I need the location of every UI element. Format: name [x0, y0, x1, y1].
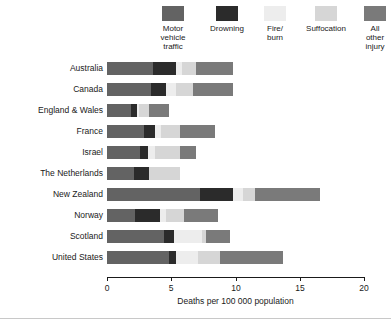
- legend-item-motor-vehicle-traffic: Motor vehicle traffic: [150, 6, 196, 52]
- x-tick-label-0: 0: [95, 283, 119, 293]
- footer-divider: [0, 318, 391, 319]
- x-tick-label-15: 15: [288, 283, 312, 293]
- y-label-scotland: Scotland: [0, 230, 103, 243]
- legend-item-suffocation: Suffocation: [296, 6, 356, 33]
- bar-segment-canada-drowning: [151, 83, 166, 96]
- bar-segment-australia-all-other-injury: [196, 62, 233, 75]
- x-tick-5: [171, 277, 172, 281]
- y-label-israel: Israel: [0, 146, 103, 159]
- bar-segment-united-states-drowning: [169, 251, 177, 264]
- bar-segment-australia-suffocation: [182, 62, 196, 75]
- legend-swatch-all-other-injury: [364, 6, 386, 21]
- bar-segment-france-motor-vehicle-traffic: [107, 125, 144, 138]
- bar-segment-scotland-motor-vehicle-traffic: [107, 230, 164, 243]
- bar-segment-the-netherlands-drowning: [134, 167, 149, 180]
- legend-label-drowning: Drowning: [201, 24, 253, 33]
- bar-row-new-zealand: [107, 188, 364, 201]
- bar-segment-new-zealand-motor-vehicle-traffic: [107, 188, 200, 201]
- bar-segment-new-zealand-fire-burn: [233, 188, 243, 201]
- bar-segment-new-zealand-suffocation: [243, 188, 255, 201]
- bar-segment-norway-all-other-injury: [184, 209, 217, 222]
- x-tick-label-5: 5: [159, 283, 183, 293]
- y-label-new-zealand: New Zealand: [0, 188, 103, 201]
- y-label-england-wales: England & Wales: [0, 104, 103, 117]
- y-label-france: France: [0, 125, 103, 138]
- y-axis-labels: Australia Canada England & Wales France …: [0, 62, 103, 274]
- bar-row-the-netherlands: [107, 167, 364, 180]
- bar-segment-france-all-other-injury: [180, 125, 215, 138]
- bar-segment-israel-all-other-injury: [180, 146, 195, 159]
- legend-label-motor-vehicle-traffic: Motor vehicle traffic: [150, 24, 196, 52]
- legend-item-fire-burn: Fire/ burn: [258, 6, 292, 42]
- bar-segment-canada-all-other-injury: [193, 83, 233, 96]
- legend-label-suffocation: Suffocation: [296, 24, 356, 33]
- bar-row-australia: [107, 62, 364, 75]
- x-tick-label-10: 10: [224, 283, 248, 293]
- legend-swatch-motor-vehicle-traffic: [162, 6, 184, 21]
- bar-row-canada: [107, 83, 364, 96]
- y-label-australia: Australia: [0, 62, 103, 75]
- bar-segment-new-zealand-all-other-injury: [255, 188, 321, 201]
- y-label-united-states: United States: [0, 251, 103, 264]
- plot-area: [107, 62, 364, 274]
- bar-segment-england-wales-motor-vehicle-traffic: [107, 104, 131, 117]
- bar-segment-united-states-suffocation: [198, 251, 220, 264]
- bar-segment-norway-suffocation: [166, 209, 184, 222]
- chart-legend: Motor vehicle traffic Drowning Fire/ bur…: [150, 6, 388, 60]
- stacked-bar-chart: Motor vehicle traffic Drowning Fire/ bur…: [0, 0, 391, 326]
- legend-swatch-fire-burn: [264, 6, 286, 21]
- bar-segment-australia-drowning: [153, 62, 176, 75]
- bar-segment-canada-suffocation: [176, 83, 193, 96]
- bar-segment-scotland-fire-burn: [174, 230, 202, 243]
- x-tick-20: [364, 277, 365, 281]
- bar-segment-france-drowning: [144, 125, 154, 138]
- legend-swatch-drowning: [216, 6, 238, 21]
- bar-segment-canada-fire-burn: [166, 83, 176, 96]
- bar-row-france: [107, 125, 364, 138]
- legend-item-all-other-injury: All other injury: [360, 6, 390, 52]
- bar-row-england-wales: [107, 104, 364, 117]
- bar-segment-england-wales-all-other-injury: [149, 104, 168, 117]
- x-axis-title: Deaths per 100 000 population: [107, 296, 364, 306]
- legend-label-all-other-injury: All other injury: [360, 24, 390, 52]
- x-tick-label-20: 20: [352, 283, 376, 293]
- bar-segment-israel-suffocation: [155, 146, 181, 159]
- x-tick-15: [300, 277, 301, 281]
- bar-row-scotland: [107, 230, 364, 243]
- legend-label-fire-burn: Fire/ burn: [258, 24, 292, 42]
- y-label-the-netherlands: The Netherlands: [0, 167, 103, 180]
- bar-row-norway: [107, 209, 364, 222]
- bar-segment-canada-motor-vehicle-traffic: [107, 83, 151, 96]
- bar-segment-new-zealand-drowning: [200, 188, 233, 201]
- bar-segment-france-suffocation: [161, 125, 180, 138]
- bar-segment-united-states-all-other-injury: [220, 251, 283, 264]
- bar-segment-norway-motor-vehicle-traffic: [107, 209, 135, 222]
- legend-item-drowning: Drowning: [201, 6, 253, 33]
- x-tick-0: [107, 277, 108, 281]
- bar-segment-norway-drowning: [135, 209, 159, 222]
- bar-segment-scotland-all-other-injury: [206, 230, 230, 243]
- bar-segment-the-netherlands-motor-vehicle-traffic: [107, 167, 134, 180]
- bar-segment-australia-motor-vehicle-traffic: [107, 62, 153, 75]
- legend-swatch-suffocation: [315, 6, 337, 21]
- bar-row-israel: [107, 146, 364, 159]
- bar-segment-scotland-drowning: [164, 230, 174, 243]
- bar-row-united-states: [107, 251, 364, 264]
- bar-segment-england-wales-suffocation: [139, 104, 149, 117]
- bar-segment-israel-drowning: [140, 146, 148, 159]
- y-label-canada: Canada: [0, 83, 103, 96]
- bar-segment-israel-motor-vehicle-traffic: [107, 146, 140, 159]
- bar-segment-united-states-fire-burn: [176, 251, 198, 264]
- bar-segment-united-states-motor-vehicle-traffic: [107, 251, 169, 264]
- y-label-norway: Norway: [0, 209, 103, 222]
- bar-segment-the-netherlands-suffocation: [149, 167, 180, 180]
- x-tick-10: [236, 277, 237, 281]
